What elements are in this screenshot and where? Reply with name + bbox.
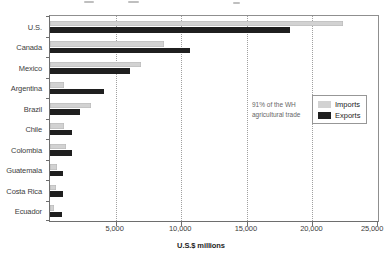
y-axis-tick bbox=[46, 78, 50, 79]
category-label-colombia: Colombia bbox=[0, 140, 42, 161]
bar-imports-ecuador bbox=[50, 205, 54, 211]
exports-swatch-icon bbox=[318, 112, 331, 119]
clipped-title-fragment bbox=[233, 2, 240, 4]
bar-imports-costa-rica bbox=[50, 185, 56, 191]
y-axis-tick bbox=[46, 16, 50, 17]
category-label-ecuador: Ecuador bbox=[0, 202, 42, 223]
x-tick-label-10000: 10,000 bbox=[169, 224, 191, 233]
clipped-title-fragment bbox=[128, 1, 139, 3]
x-tick-label-5000: 5,000 bbox=[105, 224, 123, 233]
legend-label-exports: Exports bbox=[335, 111, 360, 120]
chart-legend: Imports Exports bbox=[312, 95, 367, 124]
legend-item-exports: Exports bbox=[318, 111, 360, 120]
category-label-mexico: Mexico bbox=[0, 58, 42, 79]
gridline-15000 bbox=[247, 16, 248, 221]
bar-chart-figure: U.S.CanadaMexicoArgentinaBrazilChileColo… bbox=[0, 0, 389, 258]
category-label-brazil: Brazil bbox=[0, 99, 42, 120]
bar-exports-costa-rica bbox=[50, 191, 63, 197]
bar-exports-brazil bbox=[50, 109, 80, 115]
category-label-costa-rica: Costa Rica bbox=[0, 181, 42, 202]
category-label-u-s: U.S. bbox=[0, 17, 42, 38]
y-axis-tick bbox=[46, 160, 50, 161]
bar-exports-ecuador bbox=[50, 212, 62, 218]
bar-exports-guatemala bbox=[50, 171, 63, 177]
legend-label-imports: Imports bbox=[335, 100, 360, 109]
annotation-line-1: 91% of the WH bbox=[252, 100, 312, 110]
y-axis-tick bbox=[46, 98, 50, 99]
x-tick-label-15000: 15,000 bbox=[235, 224, 257, 233]
x-tick-label-25000: 25,000 bbox=[361, 224, 383, 233]
category-label-guatemala: Guatemala bbox=[0, 161, 42, 182]
bar-imports-colombia bbox=[50, 144, 66, 150]
bar-exports-u-s bbox=[50, 27, 290, 33]
category-label-chile: Chile bbox=[0, 120, 42, 141]
bar-imports-u-s bbox=[50, 21, 343, 27]
bar-exports-colombia bbox=[50, 150, 72, 156]
y-axis-tick bbox=[46, 37, 50, 38]
category-label-canada: Canada bbox=[0, 38, 42, 59]
bar-exports-mexico bbox=[50, 68, 130, 74]
y-axis-tick bbox=[46, 119, 50, 120]
imports-swatch-icon bbox=[318, 101, 331, 108]
bar-imports-chile bbox=[50, 123, 64, 129]
legend-item-imports: Imports bbox=[318, 100, 360, 109]
x-axis-title: U.S.$ millions bbox=[141, 241, 261, 250]
annotation-line-2: agricultural trade bbox=[252, 110, 312, 120]
y-axis-tick bbox=[46, 180, 50, 181]
chart-annotation: 91% of the WH agricultural trade bbox=[252, 100, 312, 120]
y-axis-tick bbox=[46, 201, 50, 202]
y-axis-tick bbox=[46, 57, 50, 58]
bar-imports-canada bbox=[50, 41, 164, 47]
y-axis-labels: U.S.CanadaMexicoArgentinaBrazilChileColo… bbox=[0, 15, 45, 222]
bar-imports-brazil bbox=[50, 103, 91, 109]
category-label-argentina: Argentina bbox=[0, 79, 42, 100]
x-tick-label-20000: 20,000 bbox=[300, 224, 322, 233]
bar-imports-guatemala bbox=[50, 164, 57, 170]
bar-exports-argentina bbox=[50, 89, 104, 95]
bar-exports-canada bbox=[50, 48, 190, 54]
bar-imports-argentina bbox=[50, 82, 64, 88]
clipped-title-fragment bbox=[84, 1, 94, 3]
y-axis-tick bbox=[46, 139, 50, 140]
x-axis-tick-labels: 5,00010,00015,00020,00025,000 bbox=[49, 224, 379, 234]
y-axis-tick bbox=[46, 220, 50, 221]
bar-imports-mexico bbox=[50, 62, 141, 68]
bar-exports-chile bbox=[50, 130, 72, 136]
